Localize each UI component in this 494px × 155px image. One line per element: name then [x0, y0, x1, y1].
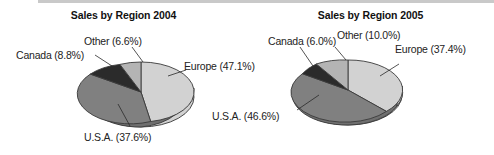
- chart-panel-2005: Sales by Region 2005: [247, 0, 494, 155]
- pie-2005-label-canada: Canada (6.0%): [268, 35, 336, 47]
- pie-2004-label-usa: U.S.A. (37.6%): [84, 131, 151, 143]
- pie-2004-label-other: Other (6.6%): [84, 35, 142, 47]
- pie-2005-label-other: Other (10.0%): [337, 29, 400, 41]
- pie-2005-label-usa: U.S.A. (46.6%): [212, 110, 279, 122]
- chart-panel-2004: Sales by Region 2004: [0, 0, 247, 155]
- pie-chart-figure: Sales by Region 2004: [0, 0, 494, 155]
- pie-2004-label-europe: Europe (47.1%): [184, 60, 255, 72]
- pie-2005-label-europe: Europe (37.4%): [395, 43, 466, 55]
- pie-chart-2005: [247, 0, 494, 155]
- pie-2004-label-canada: Canada (8.8%): [16, 49, 84, 61]
